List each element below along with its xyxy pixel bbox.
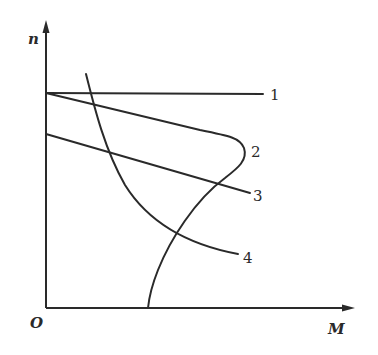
- curve-4-label: 4: [243, 249, 253, 267]
- x-axis: M: [46, 305, 355, 339]
- origin-label: O: [30, 314, 43, 332]
- x-axis-arrow-icon: [342, 305, 355, 312]
- curve-2: 2: [46, 93, 261, 308]
- motor-characteristic-diagram: n M O 1 2 3 4: [0, 0, 378, 355]
- curve-3-label: 3: [253, 187, 263, 205]
- y-axis-label: n: [28, 30, 39, 48]
- y-axis-arrow-icon: [43, 20, 50, 33]
- curve-1-label: 1: [270, 86, 280, 104]
- x-axis-label: M: [327, 320, 345, 338]
- curve-3: 3: [46, 134, 263, 205]
- curve-2-label: 2: [251, 143, 261, 161]
- y-axis: n: [28, 20, 50, 308]
